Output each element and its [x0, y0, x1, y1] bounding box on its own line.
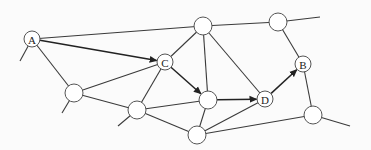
node-ll: [128, 101, 146, 119]
edge-a-t1: [32, 26, 203, 39]
edge-ll-bt: [137, 110, 197, 135]
nodes: ACBD: [24, 13, 322, 144]
edge-t1-t2: [203, 22, 278, 26]
edge-l-ll: [74, 93, 137, 110]
edge-bt-r: [197, 115, 313, 135]
edge-t1-m: [203, 26, 208, 100]
node-c: C: [157, 54, 173, 70]
edge-t1-d: [203, 26, 265, 99]
node-t2: [269, 13, 287, 31]
node-label: B: [299, 59, 306, 71]
node-circle: [128, 101, 146, 119]
node-b: B: [295, 56, 311, 72]
directed-edge-c-m: [171, 67, 201, 93]
node-d: D: [257, 91, 273, 107]
node-t1: [194, 17, 212, 35]
node-circle: [188, 126, 206, 144]
node-label: D: [261, 94, 269, 106]
node-circle: [304, 106, 322, 124]
directed-edge-a-c: [40, 40, 157, 60]
node-m: [199, 91, 217, 109]
node-circle: [269, 13, 287, 31]
node-a: A: [24, 31, 40, 47]
node-bt: [188, 126, 206, 144]
edge-a-l: [32, 39, 74, 93]
network-diagram: ACBD: [0, 0, 371, 150]
edges: [32, 22, 313, 135]
node-r: [304, 106, 322, 124]
directed-edge-d-b: [271, 70, 297, 94]
directed-edge-m-d: [217, 99, 257, 100]
node-circle: [194, 17, 212, 35]
node-label: A: [28, 34, 36, 46]
edge-c-l: [74, 62, 165, 93]
graph-canvas: ACBD: [0, 0, 371, 150]
node-circle: [65, 84, 83, 102]
node-l: [65, 84, 83, 102]
node-label: C: [161, 57, 168, 69]
edge-ll-m: [137, 100, 208, 110]
node-circle: [199, 91, 217, 109]
